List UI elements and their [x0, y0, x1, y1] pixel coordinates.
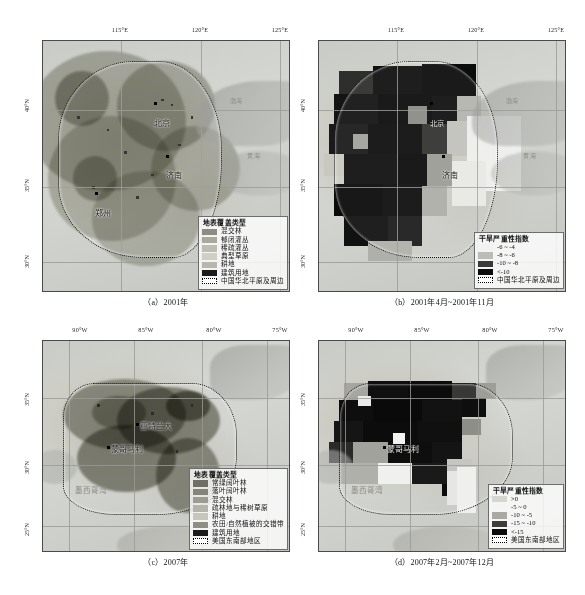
legend-swatch	[193, 505, 208, 512]
panel-d-map: 蒙哥马利 墨西哥湾 干旱严重性指数 >0 -5 ~ 0 -10	[318, 340, 566, 552]
legend-label: 美国东南部地区	[212, 538, 261, 545]
legend-label: 农田/自然植被的交错带	[212, 521, 284, 528]
legend-label: 疏林地与稀树草原	[212, 505, 268, 512]
legend-item: 美国东南部地区	[193, 538, 284, 545]
city-marker: 济南	[442, 146, 458, 182]
y-tick: 30°N	[299, 461, 306, 474]
legend-item: 耕地	[202, 261, 284, 268]
study-region-outline	[339, 383, 513, 515]
panel-c-x-axis: 90°W 85°W 80°W 75°W	[42, 326, 290, 340]
legend-label: 典型草原	[221, 253, 249, 260]
sea-label: 渤海	[506, 96, 519, 105]
legend-label: 美国东南部地区	[511, 537, 560, 544]
legend-swatch-outline	[492, 537, 507, 544]
legend-label: 落叶阔叶林	[212, 488, 247, 495]
legend-item: -5 ~ 0	[492, 504, 560, 511]
city-dot	[107, 446, 110, 449]
y-tick: 40°N	[23, 99, 30, 112]
legend-label: -8 ~ -6	[497, 252, 515, 259]
legend-item: <-15	[492, 529, 560, 536]
study-region-outline	[334, 61, 498, 258]
legend-label: 混交林	[221, 228, 242, 235]
x-tick: 80°W	[206, 326, 221, 333]
legend-item: -10 ~ -8	[478, 260, 560, 267]
panel-c-legend: 地表覆盖类型 常绿阔叶林 落叶阔叶林 混交林	[189, 468, 288, 550]
legend-item: 中国华北平原及周边	[478, 277, 560, 284]
legend-label: -10 ~ -5	[511, 512, 532, 519]
legend-swatch	[492, 504, 507, 511]
city-marker: 济南	[166, 146, 182, 182]
legend-swatch	[492, 496, 507, 503]
legend-item: 稀疏灌丛	[202, 245, 284, 252]
city-marker: 蒙哥马利	[383, 438, 419, 456]
sea-label: 黄海	[523, 151, 536, 160]
panel-b-map: 北京 济南 渤海 黄海 干旱严重性指数 -6 ~ -4 -8 ~	[318, 40, 566, 292]
city-label: 济南	[166, 171, 182, 180]
x-tick: 85°W	[414, 326, 429, 333]
panel-a-caption: （a）2001年	[42, 296, 290, 307]
legend-swatch-outline	[202, 278, 217, 285]
y-tick: 25°N	[299, 523, 306, 536]
legend-title: 干旱严重性指数	[493, 487, 560, 494]
legend-item: -10 ~ -5	[492, 512, 560, 519]
legend-swatch	[478, 252, 493, 259]
legend-swatch-outline	[193, 538, 208, 545]
legend-item: 郁闭灌丛	[202, 237, 284, 244]
legend-label: 建筑用地	[221, 270, 249, 277]
legend-label: -15 ~ -10	[511, 520, 535, 527]
legend-label: <-10	[497, 269, 510, 276]
legend-item: >0	[492, 496, 560, 503]
city-dot	[442, 155, 445, 158]
x-tick: 120°E	[192, 26, 209, 33]
panel-a: 115°E 120°E 125°E 40°N 35°N 30°N	[22, 26, 292, 307]
panel-b-x-axis: 115°E 120°E 125°E	[318, 26, 566, 40]
panel-a-x-axis: 115°E 120°E 125°E	[42, 26, 290, 40]
panel-b: 115°E 120°E 125°E 40°N 35°N 30°N	[298, 26, 568, 307]
legend-swatch	[193, 480, 208, 487]
legend-swatch	[202, 262, 217, 269]
panel-d-legend: 干旱严重性指数 >0 -5 ~ 0 -10 ~ -5	[488, 484, 564, 549]
legend-title: 地表覆盖类型	[194, 471, 284, 478]
sea-label: 墨西哥湾	[75, 484, 107, 495]
legend-item: 农田/自然植被的交错带	[193, 521, 284, 528]
coastline-shade	[486, 345, 566, 400]
legend-item: -8 ~ -6	[478, 252, 560, 259]
city-label: 济南	[442, 171, 458, 180]
legend-label: -6 ~ -4	[497, 244, 515, 251]
x-tick: 75°W	[272, 326, 287, 333]
legend-label: -10 ~ -8	[497, 260, 518, 267]
y-tick: 30°N	[23, 255, 30, 268]
panel-a-y-axis: 40°N 35°N 30°N	[22, 40, 42, 292]
legend-item: 耕地	[193, 513, 284, 520]
x-tick: 90°W	[72, 326, 87, 333]
city-marker: 郑州	[95, 184, 111, 220]
panel-a-map: 北京 济南 郑州 渤海 黄海 地表覆盖类型 混交林	[42, 40, 290, 292]
legend-swatch	[193, 513, 208, 520]
y-tick: 35°N	[299, 393, 306, 406]
legend-label: 耕地	[221, 261, 235, 268]
panel-b-legend: 干旱严重性指数 -6 ~ -4 -8 ~ -6 -10 ~ -8	[474, 232, 564, 289]
legend-swatch	[202, 229, 217, 236]
x-tick: 90°W	[348, 326, 363, 333]
panel-c-map: 亚特兰大 蒙哥马利 墨西哥湾 地表覆盖类型 常绿阔叶林 落叶阔叶林	[42, 340, 290, 552]
city-marker: 蒙哥马利	[107, 438, 143, 456]
legend-label: 耕地	[212, 513, 226, 520]
panel-b-caption: （b）2001年4月~2001年11月	[318, 296, 566, 307]
city-marker: 北京	[154, 94, 170, 130]
legend-item: 建筑用地	[193, 530, 284, 537]
x-tick: 80°W	[482, 326, 497, 333]
city-dot	[383, 446, 386, 449]
legend-swatch	[202, 253, 217, 260]
legend-swatch	[478, 269, 493, 276]
legend-swatch	[202, 270, 217, 277]
city-dot	[430, 102, 433, 105]
legend-swatch	[193, 489, 208, 496]
y-tick: 35°N	[23, 393, 30, 406]
legend-swatch	[202, 245, 217, 252]
city-marker: 亚特兰大	[136, 415, 172, 433]
legend-label: >0	[511, 496, 518, 503]
legend-title: 地表覆盖类型	[203, 219, 284, 226]
legend-label: 中国华北平原及周边	[497, 277, 560, 284]
y-tick: 30°N	[299, 255, 306, 268]
legend-item: 典型草原	[202, 253, 284, 260]
